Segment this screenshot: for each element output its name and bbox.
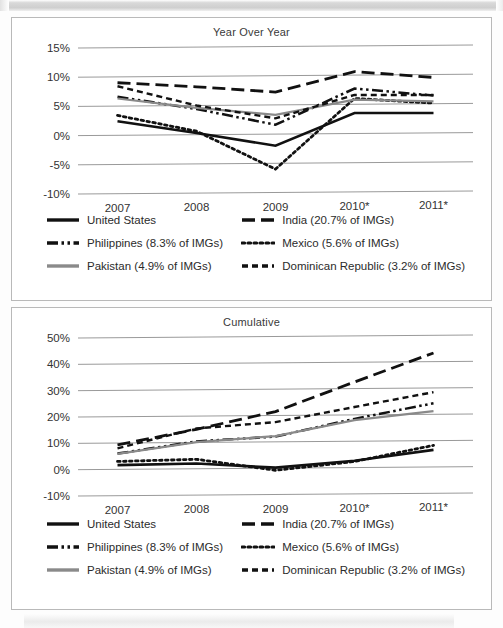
y-axis-tick-label: -10%: [43, 490, 70, 502]
solid-gray-line: [46, 565, 80, 575]
chart-series-line: [118, 353, 434, 445]
legend-item-mexico[interactable]: Mexico (5.6% of IMGs): [241, 237, 465, 249]
long-dash-line: [241, 519, 275, 529]
chart-panel-cumulative: Cumulative 50%40%30%20%10%0%-10%20072008…: [11, 307, 492, 610]
chart-series-line: [118, 392, 434, 448]
legend-item-dominican-republic[interactable]: Dominican Republic (3.2% of IMGs): [241, 564, 465, 576]
chart-series-line: [118, 450, 434, 468]
gridline: [78, 74, 473, 77]
x-axis-tick-label: 2008: [184, 201, 210, 213]
y-axis-tick-label: 0%: [53, 464, 70, 476]
y-axis-tick-label: 15%: [47, 42, 70, 54]
legend-swatch-icon: [241, 261, 275, 271]
gridline: [78, 335, 473, 338]
legend-item-united-states[interactable]: United States: [46, 518, 241, 530]
chart-panel-year-over-year: Year Over Year 15%10%5%0%-5%-10%20072008…: [11, 17, 492, 301]
chart-legend-year-over-year: United StatesIndia (20.7% of IMGs)Philip…: [12, 214, 491, 272]
scan-edge-band: [0, 0, 503, 11]
y-axis-tick-label: 10%: [47, 71, 70, 83]
dash-dot-dot-line: [46, 238, 80, 248]
chart-series-line: [118, 411, 434, 454]
gridline: [78, 361, 473, 364]
legend-item-pakistan[interactable]: Pakistan (4.9% of IMGs): [46, 564, 241, 576]
legend-item-label: Philippines (8.3% of IMGs): [87, 237, 223, 249]
y-axis-tick-label: 50%: [47, 332, 70, 344]
x-axis-tick-label: 2011*: [419, 501, 449, 513]
dotted-line: [241, 238, 275, 248]
x-axis-tick-label: 2009: [263, 201, 289, 213]
y-axis-tick-label: 0%: [53, 130, 70, 142]
legend-swatch-icon: [241, 565, 275, 575]
gridline: [78, 45, 473, 48]
x-axis-tick-label: 2007: [105, 504, 131, 516]
legend-swatch-icon: [46, 261, 80, 271]
legend-item-mexico[interactable]: Mexico (5.6% of IMGs): [241, 541, 465, 553]
y-axis-tick-label: -10%: [43, 188, 70, 200]
x-axis-tick-label: 2011*: [419, 199, 449, 211]
gridline: [78, 191, 473, 194]
legend-item-label: Pakistan (4.9% of IMGs): [87, 260, 212, 272]
x-axis-tick-label: 2010*: [339, 502, 370, 514]
legend-item-label: Dominican Republic (3.2% of IMGs): [282, 260, 465, 272]
legend-item-label: India (20.7% of IMGs): [282, 214, 394, 226]
legend-swatch-icon: [241, 519, 275, 529]
page-bottom-fade: [24, 614, 454, 628]
chart-plot-cumulative: 50%40%30%20%10%0%-10%2007200820092010*20…: [12, 332, 491, 532]
gridline: [78, 388, 473, 391]
gridline: [78, 493, 473, 496]
legend-item-label: Pakistan (4.9% of IMGs): [87, 564, 212, 576]
chart-title-cumulative: Cumulative: [12, 316, 491, 328]
legend-item-philippines[interactable]: Philippines (8.3% of IMGs): [46, 541, 241, 553]
legend-item-india[interactable]: India (20.7% of IMGs): [241, 518, 465, 530]
dash-dot-dot-line: [46, 542, 80, 552]
chart-plot-year-over-year: 15%10%5%0%-5%-10%2007200820092010*2011*: [12, 42, 491, 228]
legend-item-pakistan[interactable]: Pakistan (4.9% of IMGs): [46, 260, 241, 272]
solid-gray-line: [46, 261, 80, 271]
legend-swatch-icon: [46, 238, 80, 248]
gridline: [78, 103, 473, 106]
legend-item-label: Philippines (8.3% of IMGs): [87, 541, 223, 553]
gridline: [78, 133, 473, 136]
x-axis-tick-label: 2009: [263, 503, 289, 515]
dotted-line: [241, 542, 275, 552]
y-axis-tick-label: -5%: [50, 159, 70, 171]
chart-title-year-over-year: Year Over Year: [12, 26, 491, 38]
document-page: Year Over Year 15%10%5%0%-5%-10%20072008…: [0, 11, 503, 628]
chart-series-line: [118, 72, 434, 92]
legend-item-label: Dominican Republic (3.2% of IMGs): [282, 564, 465, 576]
long-dash-line: [241, 215, 275, 225]
legend-item-india[interactable]: India (20.7% of IMGs): [241, 214, 465, 226]
x-axis-tick-label: 2008: [184, 503, 210, 515]
y-axis-tick-label: 40%: [47, 358, 70, 370]
legend-swatch-icon: [46, 542, 80, 552]
solid-black-line: [46, 519, 80, 529]
legend-item-label: Mexico (5.6% of IMGs): [282, 237, 399, 249]
legend-item-label: Mexico (5.6% of IMGs): [282, 541, 399, 553]
legend-swatch-icon: [46, 519, 80, 529]
legend-swatch-icon: [46, 565, 80, 575]
legend-swatch-icon: [241, 238, 275, 248]
x-axis-tick-label: 2010*: [339, 200, 370, 212]
legend-item-united-states[interactable]: United States: [46, 214, 241, 226]
legend-item-label: United States: [87, 214, 156, 226]
legend-item-label: United States: [87, 518, 156, 530]
legend-swatch-icon: [46, 215, 80, 225]
legend-item-philippines[interactable]: Philippines (8.3% of IMGs): [46, 237, 241, 249]
legend-swatch-icon: [241, 542, 275, 552]
x-axis-tick-label: 2007: [105, 202, 131, 214]
y-axis-tick-label: 20%: [47, 411, 70, 423]
legend-item-dominican-republic[interactable]: Dominican Republic (3.2% of IMGs): [241, 260, 465, 272]
y-axis-tick-label: 10%: [47, 437, 70, 449]
legend-swatch-icon: [241, 215, 275, 225]
y-axis-tick-label: 30%: [47, 385, 70, 397]
short-dash-line: [241, 565, 275, 575]
y-axis-tick-label: 5%: [53, 100, 70, 112]
short-dash-line: [241, 261, 275, 271]
gridline: [78, 162, 473, 165]
chart-legend-cumulative: United StatesIndia (20.7% of IMGs)Philip…: [12, 518, 491, 576]
legend-item-label: India (20.7% of IMGs): [282, 518, 394, 530]
solid-black-line: [46, 215, 80, 225]
